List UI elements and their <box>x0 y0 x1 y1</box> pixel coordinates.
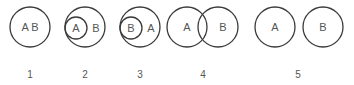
circle-b <box>198 7 238 47</box>
label-b: B <box>92 22 99 34</box>
diagram-number: 1 <box>27 69 33 80</box>
label-b: B <box>219 21 226 33</box>
diagram-number: 3 <box>137 69 143 80</box>
diagram-1-equal: A B 1 <box>10 7 50 80</box>
diagram-3-b-subset-a: B A 3 <box>120 7 160 80</box>
venn-relations-diagram: A B 1 A B 2 B A 3 A B 4 A B 5 <box>0 0 354 85</box>
label-a: A <box>72 22 80 34</box>
diagram-number: 4 <box>200 69 206 80</box>
label-a: A <box>147 22 155 34</box>
label-a: A <box>271 21 279 33</box>
diagram-number: 5 <box>295 69 301 80</box>
diagram-4-overlap: A B 4 <box>167 7 238 80</box>
label-a: A <box>183 21 191 33</box>
label-b: B <box>319 21 326 33</box>
label-b: B <box>127 22 134 34</box>
diagram-2-a-subset-b: A B 2 <box>65 7 105 80</box>
diagram-number: 2 <box>82 69 88 80</box>
diagram-5-disjoint: A B 5 <box>255 7 343 80</box>
label-ab: A B <box>21 21 38 33</box>
